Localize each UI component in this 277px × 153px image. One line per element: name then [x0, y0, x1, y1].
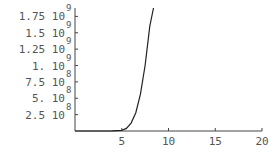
y-tick-label: 7.5 10 — [25, 76, 65, 89]
y-tick-label: 1.5 10 — [25, 27, 65, 40]
x-tick-label: 20 — [255, 135, 268, 148]
y-tick-labels: 2.5 1085. 1087.5 1081. 1091.25 1091.5 10… — [19, 3, 78, 121]
y-tick-exponent: 9 — [66, 20, 71, 30]
y-tick-exponent: 9 — [66, 3, 71, 13]
y-tick-label: 1. 10 — [32, 60, 65, 73]
y-tick-exponent: 8 — [66, 69, 71, 79]
data-line — [75, 8, 154, 131]
x-tick-label: 15 — [209, 135, 222, 148]
x-tick-label: 10 — [162, 135, 175, 148]
y-tick-label: 5. 10 — [32, 92, 65, 105]
x-tick-label: 5 — [118, 135, 125, 148]
y-tick-label: 2.5 10 — [25, 109, 65, 122]
y-tick-exponent: 8 — [66, 102, 71, 112]
y-tick-exponent: 8 — [66, 85, 71, 95]
y-tick-label: 1.75 10 — [19, 10, 65, 23]
chart: 2.5 1085. 1087.5 1081. 1091.25 1091.5 10… — [0, 0, 277, 153]
y-tick-exponent: 9 — [66, 36, 71, 46]
y-tick-exponent: 9 — [66, 53, 71, 63]
y-tick-label: 1.25 10 — [19, 43, 65, 56]
